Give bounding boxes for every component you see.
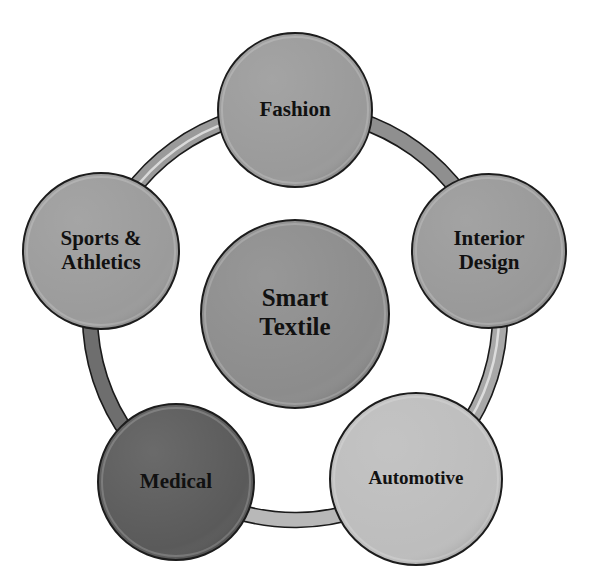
node-automotive: Automotive	[330, 393, 502, 565]
center-node-smart-textile: SmartTextile	[201, 220, 389, 408]
smart-textile-diagram: FashionInteriorDesignAutomotiveMedicalSp…	[0, 0, 589, 587]
node-interior-design-label: Interior	[453, 226, 524, 250]
node-medical-label: Medical	[140, 469, 212, 493]
center-hub: SmartTextile	[201, 220, 389, 408]
node-fashion-label: Fashion	[259, 97, 331, 121]
node-fashion: Fashion	[218, 33, 372, 187]
node-automotive-label: Automotive	[369, 467, 464, 488]
node-interior-design-label: Design	[459, 250, 520, 274]
node-sports-athletics-label: Sports &	[60, 226, 141, 250]
node-sports-athletics: Sports &Athletics	[23, 173, 179, 329]
diagram-svg: FashionInteriorDesignAutomotiveMedicalSp…	[0, 0, 589, 587]
node-sports-athletics-label: Athletics	[61, 250, 140, 274]
node-interior-design: InteriorDesign	[412, 174, 566, 328]
node-medical: Medical	[98, 404, 254, 560]
center-node-smart-textile-label: Smart	[262, 284, 329, 311]
center-node-smart-textile-label: Textile	[259, 313, 330, 340]
